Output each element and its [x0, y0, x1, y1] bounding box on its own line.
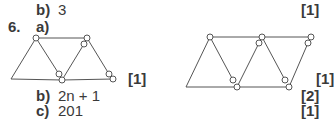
q6-part-a-mark-right: [1]	[316, 70, 334, 87]
q6-part-a-mark-left: [1]	[128, 70, 146, 87]
q6-part-c-mark: [1]	[301, 102, 319, 119]
q6-part-c-answer: 201	[58, 102, 83, 119]
pattern-5-triangles-figure	[186, 37, 311, 87]
q6-part-c-label: c)	[36, 102, 49, 119]
